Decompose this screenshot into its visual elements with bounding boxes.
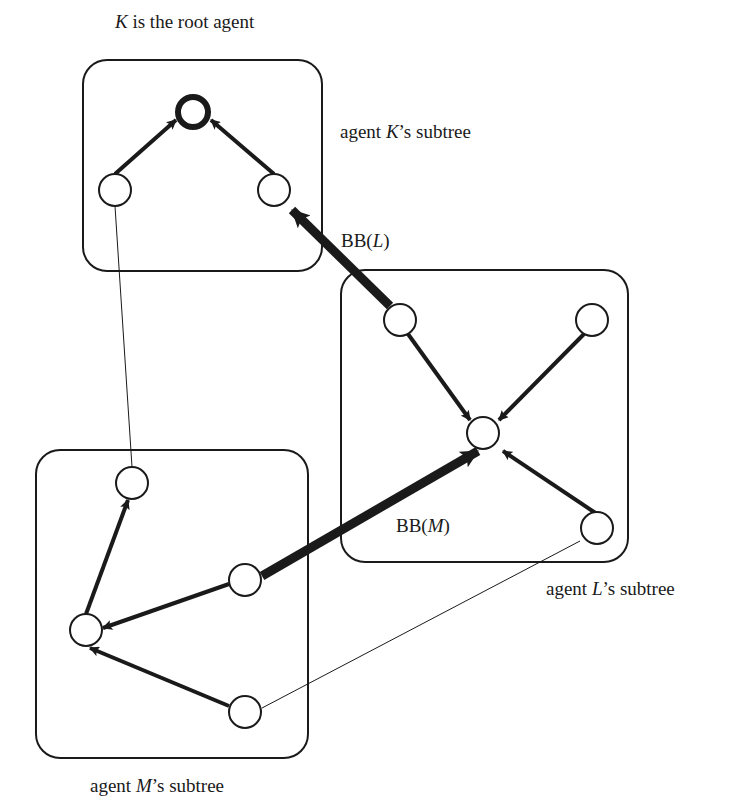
bridge-label-var: M	[428, 515, 444, 536]
arrow-L3-L0	[503, 451, 597, 514]
thin-link-K1-M1	[115, 206, 132, 467]
root-agent-text: is the root agent	[128, 11, 255, 32]
arrow-L1-L0	[408, 334, 470, 420]
arrow-K2-K0	[211, 120, 274, 174]
arrow-M0-M1	[86, 500, 128, 614]
node-M3	[229, 696, 261, 728]
bridge-label-prefix: BB(	[341, 230, 373, 251]
subtree-label-var: L	[592, 578, 603, 599]
bridge-label-var: L	[373, 230, 384, 251]
root-agent-var: K	[115, 11, 128, 32]
node-K2	[258, 174, 290, 206]
subtree-label-L: agent L’s subtree	[546, 579, 675, 598]
subtree-label-prefix: agent	[90, 775, 136, 796]
subtree-label-suffix: ’s subtree	[152, 775, 224, 796]
bridge-label-suffix: )	[383, 230, 389, 251]
subtree-box-K	[83, 60, 322, 271]
node-M0	[70, 614, 102, 646]
node-L3	[581, 512, 613, 544]
node-M1	[116, 467, 148, 499]
subtree-label-var: M	[136, 775, 152, 796]
bridge-label-suffix: )	[444, 515, 450, 536]
subtree-label-var: K	[386, 121, 399, 142]
bridge-label-BB-M: BB(M)	[396, 516, 450, 535]
node-M2	[229, 564, 261, 596]
subtree-label-suffix: ’s subtree	[602, 578, 674, 599]
arrow-M3-M0	[90, 648, 229, 706]
subtree-label-prefix: agent	[546, 578, 592, 599]
arrow-K1-K0	[115, 120, 176, 174]
node-root-K	[178, 97, 208, 127]
node-L1	[384, 304, 416, 336]
bridge-arrow-BB-M	[262, 451, 478, 576]
arrow-M2-M0	[103, 584, 229, 628]
subtree-label-suffix: ’s subtree	[399, 121, 471, 142]
node-K1	[99, 174, 131, 206]
subtree-label-K: agent K’s subtree	[340, 122, 471, 141]
root-agent-caption: K is the root agent	[115, 12, 254, 31]
subtree-label-prefix: agent	[340, 121, 386, 142]
bridge-label-BB-L: BB(L)	[341, 231, 390, 250]
subtree-label-M: agent M’s subtree	[90, 776, 224, 795]
arrow-L2-L0	[499, 334, 584, 420]
thin-link-L3-M3	[262, 541, 580, 708]
node-L2	[576, 304, 608, 336]
bridge-label-prefix: BB(	[396, 515, 428, 536]
node-L0	[467, 417, 499, 449]
